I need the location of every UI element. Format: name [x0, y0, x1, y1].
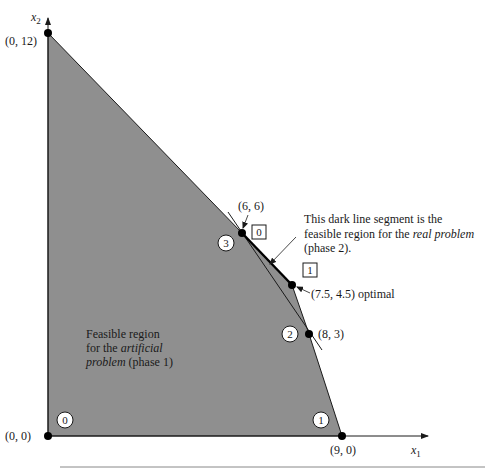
x1-axis-label: x1 — [410, 443, 421, 459]
arrow-phase2-segment — [270, 237, 296, 264]
point-8-3 — [305, 330, 313, 338]
boxed-marker-1: 1 — [303, 263, 317, 277]
diagram-canvas: x2 x1 (0, 0) (0, 12) (6, 6) (7.5, 4.5) o… — [0, 0, 485, 469]
arrow-optimal — [297, 287, 310, 293]
svg-text:(phase 2).: (phase 2). — [304, 241, 351, 255]
label-0-12: (0, 12) — [5, 34, 37, 48]
svg-text:2: 2 — [287, 328, 293, 340]
arrow-6-6 — [243, 215, 248, 228]
svg-text:0: 0 — [256, 226, 262, 238]
svg-text:1: 1 — [307, 264, 313, 276]
label-6-6: (6, 6) — [238, 199, 264, 213]
label-9-0: (9, 0) — [330, 443, 356, 457]
label-origin: (0, 0) — [5, 429, 31, 443]
circled-marker-0: 0 — [57, 412, 73, 428]
point-9-0 — [338, 432, 346, 440]
circled-marker-3: 3 — [218, 235, 234, 251]
label-optimal: (7.5, 4.5) optimal — [311, 287, 395, 301]
feasible-region-artificial — [48, 33, 342, 436]
svg-text:0: 0 — [62, 414, 68, 426]
svg-text:1: 1 — [318, 414, 324, 426]
svg-text:This dark line segment is the: This dark line segment is the — [304, 212, 442, 226]
point-optimal — [288, 281, 296, 289]
point-0-12 — [44, 29, 52, 37]
boxed-marker-0: 0 — [252, 225, 266, 239]
point-origin — [44, 432, 52, 440]
svg-text:feasible region for the real p: feasible region for the real problem — [304, 227, 474, 241]
point-6-6 — [238, 229, 246, 237]
phase2-annotation: This dark line segment is the feasible r… — [304, 212, 474, 255]
svg-text:Feasible region: Feasible region — [86, 327, 160, 341]
label-8-3: (8, 3) — [318, 327, 344, 341]
svg-text:for the artificial: for the artificial — [86, 341, 163, 355]
x2-axis-label: x2 — [30, 10, 41, 26]
svg-text:3: 3 — [223, 237, 229, 249]
circled-marker-1: 1 — [313, 412, 329, 428]
circled-marker-2: 2 — [282, 326, 298, 342]
svg-text:problem (phase 1): problem (phase 1) — [85, 355, 173, 369]
